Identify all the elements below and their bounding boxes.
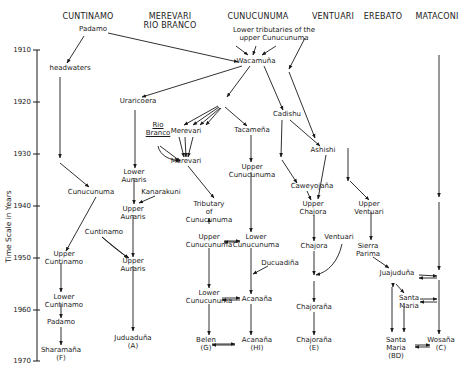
arrow	[139, 196, 155, 203]
node-upper-chajora: Upper Chajora	[299, 200, 326, 216]
arrow	[108, 33, 238, 62]
node-ventuari-side: Ventuari	[324, 233, 353, 241]
node-tributary: Tributary of Cunucunuma	[186, 200, 232, 224]
arrow	[225, 107, 247, 126]
node-padamo-top: Padamo	[79, 25, 107, 33]
node-juduaduna: Juduaduña (A)	[114, 334, 151, 350]
arrow	[253, 46, 256, 55]
arrow	[282, 160, 297, 183]
arrow	[253, 266, 268, 274]
arrow	[60, 163, 89, 187]
node-upper-cuntinamo: Upper Cuntinamo	[45, 250, 83, 266]
arrow	[188, 137, 193, 157]
node-tacamena: Tacameña	[234, 126, 269, 134]
tick-label-1970: 1970	[5, 357, 31, 365]
river-chronology-diagram: CUNTINAMOMEREVARI RIO BRANCOCUNUCUNUMAVE…	[0, 0, 471, 370]
node-belen: Belen (G)	[196, 336, 216, 352]
node-merevari1: Merevari	[171, 127, 202, 135]
node-lower-tribs: Lower tributaries of the upper Cunucunum…	[233, 26, 315, 42]
arrow	[184, 106, 218, 125]
node-upper-cunucunuma2: Upper Cunucunuma	[186, 233, 232, 249]
node-padamo-bottom: Padamo	[47, 318, 75, 326]
arrow	[67, 36, 84, 63]
column-header-erebato: EREBATO	[364, 12, 403, 21]
arrow	[281, 120, 282, 157]
node-wacamuna: Wacamuña	[237, 57, 276, 65]
arrow	[373, 257, 389, 268]
arrow	[66, 197, 96, 251]
arrow	[264, 66, 283, 110]
arrow	[350, 181, 369, 200]
diagram-edges	[0, 0, 471, 370]
arrow	[290, 120, 320, 146]
node-rio-branco: Rio Branco	[146, 121, 171, 137]
node-juajuduna: Juajuduña	[380, 269, 415, 277]
node-upper-auraris1: Upper Auraris	[121, 205, 146, 221]
time-axis	[33, 50, 40, 361]
node-ashishi: Ashishi	[311, 146, 336, 154]
arrow	[236, 46, 248, 55]
node-lower-cunucunuma1: Lower Cunucunuma	[233, 233, 279, 249]
column-header-ventuari: VENTUARI	[312, 12, 354, 21]
node-wosana: Wosaña (C)	[427, 336, 454, 352]
arrow	[289, 38, 305, 69]
arrow	[142, 66, 242, 97]
node-acanana2: Acanaña (HI)	[242, 336, 272, 352]
node-upper-cunucunuma1: Upper Cunucunuma	[229, 163, 275, 179]
node-cuntinamo-label: Cuntinamo	[85, 228, 123, 236]
tick-label-1960: 1960	[5, 306, 31, 314]
arrow	[179, 137, 184, 157]
column-header-mataconi: MATACONI	[415, 12, 458, 21]
arrow	[193, 107, 219, 125]
node-lower-cunucunuma2: Lower Cunucunuma	[186, 289, 232, 305]
arrow	[307, 191, 311, 200]
column-header-merevari: MEREVARI RIO BRANCO	[144, 12, 197, 30]
node-upper-auraris2: Upper Auraris	[121, 257, 146, 273]
node-ducuadina: Ducuadiña	[261, 259, 299, 267]
node-sharamana: Sharamaña (F)	[41, 346, 81, 362]
node-chajora: Chajora	[300, 242, 327, 250]
column-header-cuntinamo: CUNTINAMO	[62, 12, 113, 21]
arrow	[419, 275, 437, 276]
node-santa-maria2: Santa Maria (BD)	[386, 336, 406, 360]
node-caweyojana: Caweyojaña	[291, 182, 334, 190]
axis-title: Time Scale in Years	[4, 190, 13, 262]
arrow	[318, 155, 326, 199]
node-merevari2: Merevari	[171, 157, 202, 165]
tick-label-1930: 1930	[5, 150, 31, 158]
node-cuntinamo-mid: Cunucunuma	[68, 188, 114, 196]
arrow	[396, 284, 404, 293]
node-sierra-parima: Sierra Parima	[356, 242, 380, 258]
arrow	[227, 66, 250, 97]
node-uraricoera: Uraricoera	[120, 97, 157, 105]
node-cadishu: Cadishu	[273, 110, 301, 118]
node-kanarakuni: Kanarakuni	[141, 188, 180, 196]
arrow	[289, 72, 315, 138]
tick-label-1910: 1910	[5, 46, 31, 54]
tick-label-1920: 1920	[5, 98, 31, 106]
node-chajorana1: Chajoraña	[296, 303, 332, 311]
node-lower-cuntinamo: Lower Cuntinamo	[45, 293, 83, 309]
arrow	[262, 46, 276, 55]
node-acanana1: Acanaña	[242, 295, 272, 303]
node-santa-maria1: Santa Maria	[399, 294, 419, 310]
arrow	[188, 166, 214, 198]
node-headwaters: headwaters	[49, 64, 90, 72]
node-chajorana2: Chajoraña (E)	[296, 336, 332, 352]
node-upper-ventuari: Upper Ventuari	[354, 200, 383, 216]
arrow	[185, 137, 186, 157]
node-lower-auraris: Lower Auraris	[122, 168, 147, 184]
column-header-cunucunuma: CUNUCUNUMA	[228, 12, 289, 21]
